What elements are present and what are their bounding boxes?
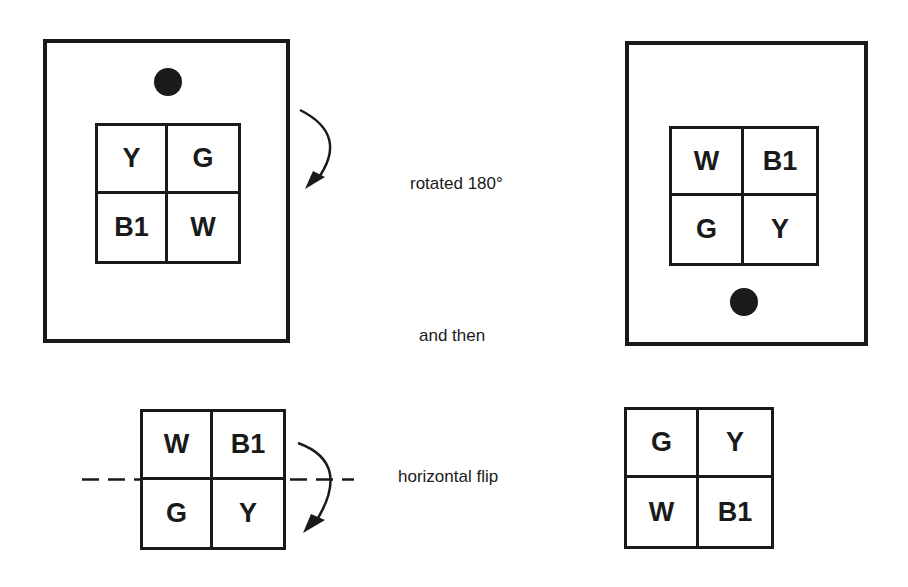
grid-cell: G	[672, 196, 744, 263]
grid-cell: Y	[699, 410, 771, 478]
step1-label: rotated 180°	[410, 174, 503, 194]
grid-cell: B1	[213, 412, 283, 480]
grid-cell: B1	[98, 194, 168, 262]
flip-arrow-icon	[295, 438, 345, 538]
orientation-dot-top	[154, 68, 182, 96]
grid-cell: W	[672, 129, 744, 196]
original-grid: Y G B1 W	[95, 123, 241, 264]
grid-cell: W	[627, 478, 699, 546]
grid-cell: G	[168, 126, 238, 194]
flipped-grid: G Y W B1	[624, 407, 774, 549]
grid-cell: G	[143, 480, 213, 548]
grid-cell: Y	[744, 196, 816, 263]
grid-cell: G	[627, 410, 699, 478]
rotate-arrow-icon	[295, 105, 345, 195]
grid-cell: Y	[213, 480, 283, 548]
grid-cell: B1	[744, 129, 816, 196]
grid-cell: W	[143, 412, 213, 480]
orientation-dot-bottom	[730, 288, 758, 316]
grid-cell: W	[168, 194, 238, 262]
step2-label: horizontal flip	[398, 467, 498, 487]
grid-cell: B1	[699, 478, 771, 546]
rotated-grid: W B1 G Y	[669, 126, 819, 266]
connector-label: and then	[419, 326, 485, 346]
flip-input-grid: W B1 G Y	[140, 409, 286, 550]
grid-cell: Y	[98, 126, 168, 194]
